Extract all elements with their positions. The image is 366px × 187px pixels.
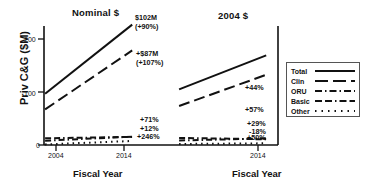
legend-label-basic: Basic: [291, 98, 314, 105]
annotation-clin-right: +57%: [245, 106, 264, 115]
legend-swatch-clin-icon: [314, 77, 356, 85]
annotation-clin-left-pct: (+107%): [136, 58, 163, 67]
annotation-other-left: +246%: [137, 133, 160, 142]
annotation-total-right: +44%: [245, 84, 264, 93]
annotation-clin-left: +$87M (+107%): [136, 50, 163, 67]
legend-label-oru: ORU: [291, 88, 314, 95]
legend-label-other: Other: [291, 108, 314, 115]
left-axis-lines: [38, 26, 182, 151]
legend-swatch-total-icon: [314, 67, 356, 75]
legend-swatch-basic-icon: [314, 97, 356, 105]
legend-item-basic: Basic: [291, 96, 356, 106]
legend-swatch-other-icon: [314, 107, 356, 115]
series-line-other: [45, 141, 132, 144]
legend-label-clin: Clin: [291, 78, 314, 85]
chart-figure: Nominal $ 2004 $ Priv C&G ($M) 200 100 0…: [0, 0, 366, 187]
legend-item-oru: ORU: [291, 86, 356, 96]
annotation-total-left: $102M (+90%): [135, 14, 158, 31]
series-line-other: [179, 143, 266, 144]
legend-swatch-oru-icon: [314, 87, 356, 95]
legend-label-total: Total: [291, 68, 314, 75]
legend-item-clin: Clin: [291, 76, 356, 86]
legend-item-other: Other: [291, 106, 356, 116]
legend-item-total: Total: [291, 66, 356, 76]
legend: Total Clin ORU Basic Other: [286, 62, 360, 117]
annotation-other-right: +50%: [247, 134, 266, 143]
annotation-total-left-pct: (+90%): [135, 22, 158, 31]
